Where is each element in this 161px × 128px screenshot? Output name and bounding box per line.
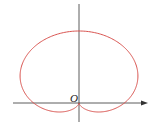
origin-label: O [70,92,78,104]
cardioid-diagram [0,0,161,128]
x-axis-arrow-icon [141,101,148,106]
